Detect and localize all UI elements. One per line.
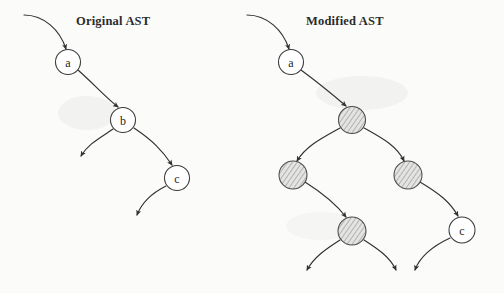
tree-edge <box>364 240 396 270</box>
tree-edge <box>24 15 66 49</box>
node-label: c <box>459 224 464 238</box>
tree-edge <box>247 15 289 49</box>
tree-edge <box>137 186 166 215</box>
tree-edge <box>415 238 450 270</box>
tree-edge <box>364 128 404 161</box>
panel-title-modified: Modified AST <box>306 14 384 29</box>
ast-node-shaded <box>394 161 422 189</box>
ast-node-plain: b <box>111 108 136 133</box>
ast-node-shaded <box>279 161 307 189</box>
ast-diagram-canvas: abcac <box>0 0 504 293</box>
edges-layer <box>24 15 458 270</box>
tree-edge <box>81 129 113 156</box>
node-circle <box>338 217 366 245</box>
ast-node-plain: c <box>165 166 190 191</box>
ast-node-plain: a <box>56 50 81 75</box>
node-label: b <box>120 114 126 128</box>
ast-transformation-figure: abcac Original AST Modified AST <box>0 0 504 293</box>
node-label: c <box>174 172 179 186</box>
tree-edge <box>305 182 346 217</box>
tree-edge <box>420 182 458 216</box>
tree-edge <box>297 128 340 161</box>
tree-edge <box>301 70 346 106</box>
panel-title-original: Original AST <box>76 14 150 29</box>
tree-edge <box>307 240 340 270</box>
tree-edge <box>134 128 172 165</box>
node-circle <box>339 107 366 134</box>
ast-node-shaded <box>338 217 366 245</box>
node-circle <box>394 161 422 189</box>
ast-node-shaded <box>339 107 366 134</box>
nodes-layer: abcac <box>56 50 476 246</box>
ast-node-plain: a <box>279 50 304 75</box>
node-label: a <box>65 56 71 70</box>
tree-edge <box>78 70 118 107</box>
node-label: a <box>288 56 294 70</box>
node-circle <box>279 161 307 189</box>
ast-node-plain: c <box>449 217 475 243</box>
